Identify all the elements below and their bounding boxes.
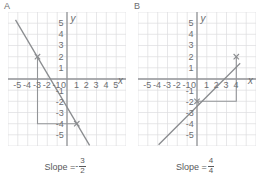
y-tick--5: -5 xyxy=(186,130,194,140)
x-axis-label: x xyxy=(247,75,254,86)
panel-b-slope-numerator: 4 xyxy=(208,157,214,165)
y-tick-1: 1 xyxy=(189,63,194,73)
panel-a-slope-fraction: 3 2 xyxy=(79,157,85,175)
figure-sheet: A xyxy=(0,0,260,179)
y-tick-3: 3 xyxy=(189,40,194,50)
panel-a-slope-label: Slope = xyxy=(44,162,75,173)
y-tick-2: 2 xyxy=(189,52,194,62)
y-tick-3: 3 xyxy=(59,40,64,50)
panel-a-caption: Slope =- 3 2 xyxy=(0,158,130,176)
x-tick-1: 1 xyxy=(204,80,209,90)
y-axis-label: y xyxy=(70,13,77,24)
x-tick--2: -2 xyxy=(43,80,51,90)
x-tick-4: 4 xyxy=(104,80,109,90)
y-tick--5: -5 xyxy=(56,130,64,140)
panel-b-graph-svg: y x -5 -4 -3 -2 -1 0 1 2 3 4 5 4 3 2 1 xyxy=(138,12,256,146)
x-tick-2: 2 xyxy=(214,80,219,90)
panel-b-slope-denominator: 4 xyxy=(208,167,214,175)
x-tick--3: -3 xyxy=(163,80,171,90)
x-tick--4: -4 xyxy=(153,80,161,90)
x-tick--4: -4 xyxy=(23,80,31,90)
y-tick--2: -2 xyxy=(186,97,194,107)
axis-tick-labels: y x -5 -4 -3 -2 -1 0 1 2 3 4 5 4 3 2 1 xyxy=(143,13,254,140)
x-tick-3: 3 xyxy=(94,80,99,90)
panel-b-plot: y x -5 -4 -3 -2 -1 0 1 2 3 4 5 4 3 2 1 xyxy=(138,12,256,146)
panel-b-caption: Slope = 4 4 xyxy=(130,158,260,176)
y-tick--4: -4 xyxy=(56,119,64,129)
panel-b-letter: B xyxy=(134,1,140,11)
y-tick--2: -2 xyxy=(56,97,64,107)
y-tick--4: -4 xyxy=(186,119,194,129)
x-tick--5: -5 xyxy=(143,80,151,90)
panel-a-slope-sign: - xyxy=(75,161,78,172)
y-tick-5: 5 xyxy=(189,18,194,28)
panel-b: B xyxy=(130,0,260,179)
y-tick--1: -1 xyxy=(186,86,194,96)
panel-a-slope-numerator: 3 xyxy=(79,157,85,165)
x-tick--2: -2 xyxy=(173,80,181,90)
x-tick--3: -3 xyxy=(33,80,41,90)
y-tick-5: 5 xyxy=(59,18,64,28)
panel-b-slope-label: Slope = xyxy=(176,162,207,173)
panel-a-plot: y x -5 -4 -3 -2 -1 0 1 2 3 4 5 xyxy=(8,12,126,146)
x-tick-5: 5 xyxy=(113,80,118,90)
panel-b-slope-fraction: 4 4 xyxy=(208,157,214,175)
y-tick--3: -3 xyxy=(186,108,194,118)
y-tick-4: 4 xyxy=(59,29,64,39)
x-tick--5: -5 xyxy=(13,80,21,90)
x-tick-1: 1 xyxy=(74,80,79,90)
y-tick--3: -3 xyxy=(56,108,64,118)
y-tick-1: 1 xyxy=(59,63,64,73)
y-tick-2: 2 xyxy=(59,52,64,62)
y-tick-4: 4 xyxy=(189,29,194,39)
panel-a-graph-svg: y x -5 -4 -3 -2 -1 0 1 2 3 4 5 xyxy=(8,12,126,146)
x-tick-3: 3 xyxy=(224,80,229,90)
panel-a: A xyxy=(0,0,130,179)
panel-a-letter: A xyxy=(4,1,10,11)
panel-a-slope-denominator: 2 xyxy=(79,167,85,175)
axis-tick-labels: y x -5 -4 -3 -2 -1 0 1 2 3 4 5 xyxy=(13,13,124,140)
x-tick-4: 4 xyxy=(234,80,239,90)
x-tick-2: 2 xyxy=(84,80,89,90)
y-axis-label: y xyxy=(200,13,207,24)
y-tick--1: -1 xyxy=(56,86,64,96)
